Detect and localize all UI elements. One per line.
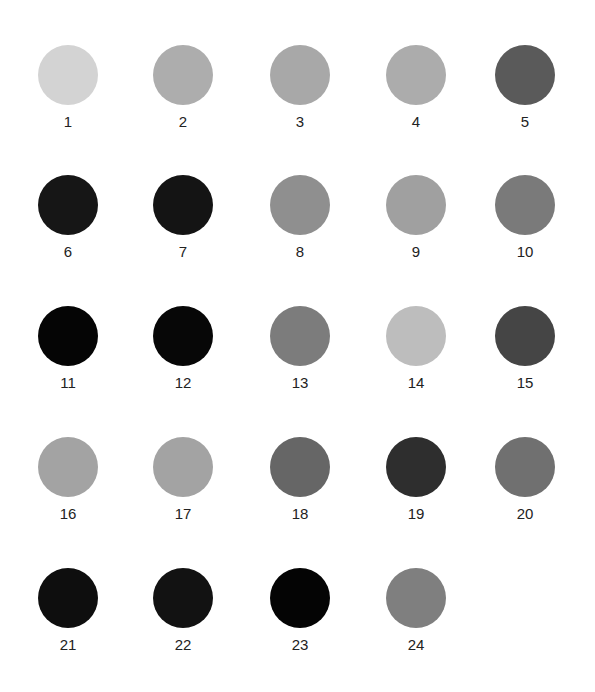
gray-circle: [386, 45, 446, 105]
gray-circle: [38, 568, 98, 628]
gray-circle: [386, 306, 446, 366]
swatch-number: 3: [250, 113, 350, 130]
swatch-number: 19: [366, 505, 466, 522]
swatch-number: 11: [18, 374, 118, 391]
gray-circle: [153, 437, 213, 497]
swatch-13: 13: [250, 306, 350, 406]
swatch-24: 24: [366, 568, 466, 668]
swatch-number: 10: [475, 243, 575, 260]
swatch-number: 15: [475, 374, 575, 391]
swatch-number: 12: [133, 374, 233, 391]
swatch-number: 2: [133, 113, 233, 130]
swatch-number: 6: [18, 243, 118, 260]
swatch-number: 21: [18, 636, 118, 653]
gray-circle: [495, 175, 555, 235]
swatch-number: 14: [366, 374, 466, 391]
gray-circle: [270, 568, 330, 628]
swatch-21: 21: [18, 568, 118, 668]
swatch-14: 14: [366, 306, 466, 406]
swatch-number: 23: [250, 636, 350, 653]
swatch-17: 17: [133, 437, 233, 537]
swatch-number: 24: [366, 636, 466, 653]
swatch-number: 8: [250, 243, 350, 260]
swatch-22: 22: [133, 568, 233, 668]
gray-circle: [386, 568, 446, 628]
swatch-16: 16: [18, 437, 118, 537]
swatch-number: 18: [250, 505, 350, 522]
gray-circle: [38, 45, 98, 105]
gray-circle: [495, 306, 555, 366]
gray-circle: [495, 45, 555, 105]
swatch-number: 20: [475, 505, 575, 522]
swatch-5: 5: [475, 45, 575, 145]
gray-circle: [270, 306, 330, 366]
gray-circle: [38, 175, 98, 235]
swatch-18: 18: [250, 437, 350, 537]
gray-circle: [153, 568, 213, 628]
swatch-1: 1: [18, 45, 118, 145]
swatch-number: 16: [18, 505, 118, 522]
swatch-10: 10: [475, 175, 575, 275]
swatch-6: 6: [18, 175, 118, 275]
swatch-number: 5: [475, 113, 575, 130]
swatch-12: 12: [133, 306, 233, 406]
swatch-4: 4: [366, 45, 466, 145]
swatch-number: 17: [133, 505, 233, 522]
swatch-7: 7: [133, 175, 233, 275]
gray-circle: [38, 306, 98, 366]
swatch-number: 13: [250, 374, 350, 391]
gray-circle: [270, 175, 330, 235]
gray-circle: [153, 175, 213, 235]
swatch-number: 1: [18, 113, 118, 130]
swatch-8: 8: [250, 175, 350, 275]
gray-circle: [270, 45, 330, 105]
swatch-number: 4: [366, 113, 466, 130]
gray-circle: [153, 45, 213, 105]
gray-swatch-grid: 123456789101112131415161718192021222324: [0, 0, 595, 692]
swatch-3: 3: [250, 45, 350, 145]
swatch-2: 2: [133, 45, 233, 145]
gray-circle: [386, 175, 446, 235]
swatch-11: 11: [18, 306, 118, 406]
swatch-9: 9: [366, 175, 466, 275]
swatch-15: 15: [475, 306, 575, 406]
gray-circle: [38, 437, 98, 497]
gray-circle: [270, 437, 330, 497]
swatch-19: 19: [366, 437, 466, 537]
swatch-number: 22: [133, 636, 233, 653]
swatch-number: 9: [366, 243, 466, 260]
swatch-23: 23: [250, 568, 350, 668]
gray-circle: [495, 437, 555, 497]
swatch-20: 20: [475, 437, 575, 537]
swatch-number: 7: [133, 243, 233, 260]
gray-circle: [153, 306, 213, 366]
gray-circle: [386, 437, 446, 497]
